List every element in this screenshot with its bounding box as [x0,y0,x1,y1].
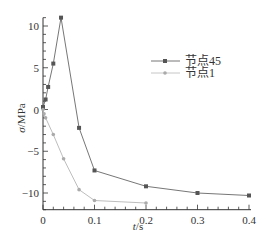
data-point [41,108,45,112]
data-point [77,188,81,192]
x-axis-label: t/s [133,220,143,232]
data-point [44,97,48,101]
data-point [44,116,48,120]
data-point [59,16,63,20]
data-point [196,191,200,195]
data-point [93,168,97,172]
data-point [93,199,97,203]
legend-marker-node1 [163,71,167,75]
legend-marker-node45 [163,59,167,63]
series-group [41,16,251,205]
y-tick-label: −10 [22,187,40,199]
data-point [144,201,148,205]
data-point [247,194,251,198]
data-point [42,112,46,116]
y-tick-label: 0 [34,104,40,116]
series-line-1 [43,110,146,204]
data-point [52,133,56,137]
legend: 节点45 节点1 [151,54,221,80]
series-line-0 [43,18,249,196]
x-tick-label: 0.3 [191,214,205,226]
data-point [51,62,55,66]
data-point [46,85,50,89]
y-tick-label: 5 [34,62,40,74]
x-tick-label: 0 [40,214,46,226]
x-tick-label: 0.1 [88,214,102,226]
legend-label-node1: 节点1 [185,66,215,80]
y-tick-label: 10 [28,20,40,32]
line-chart: −10−5051000.10.20.30.4 节点45 节点1 t/s σ/MP… [0,0,274,249]
data-point [62,157,66,161]
y-axis-label: σ/MPa [15,103,27,132]
x-tick-label: 0.4 [242,214,256,226]
data-point [77,126,81,130]
y-tick-label: −5 [27,145,39,157]
data-point [144,184,148,188]
